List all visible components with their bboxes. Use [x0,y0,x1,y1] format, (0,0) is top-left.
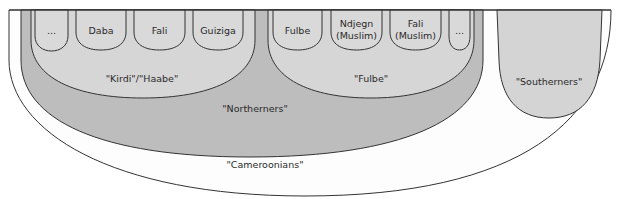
fulbe-member-label: ... [455,25,464,36]
southerners-set [497,10,602,118]
identity-diagram: ... Daba Fali Guiziga Fulbe Ndjegn (Musl… [0,0,619,199]
fulbe-member-label: Fali [408,18,424,29]
kirdi-member-label: Daba [89,25,114,36]
southerners-label: "Southerners" [516,76,583,87]
fulbe-member-label: Ndjegn [340,18,374,29]
fulbe-group-label: "Fulbe" [354,73,388,84]
fulbe-member-label: Fulbe [285,25,311,36]
northerners-label: "Northerners" [222,103,288,114]
fulbe-member-sublabel: (Muslim) [395,30,436,41]
fulbe-member-sublabel: (Muslim) [336,30,377,41]
kirdi-member-label: Guiziga [200,25,236,36]
kirdi-member-label: Fali [152,25,168,36]
kirdi-member-label: ... [47,25,56,36]
cameroonians-label: "Cameroonians" [226,159,303,170]
kirdi-haabe-label: "Kirdi"/"Haabe" [106,73,179,84]
